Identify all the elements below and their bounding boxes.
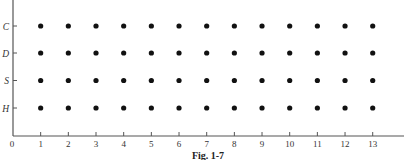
data-point [38,105,43,110]
x-tick-label: 4 [121,139,126,149]
data-point [287,78,292,83]
data-point [287,23,292,28]
data-point [149,105,154,110]
data-point [149,78,154,83]
data-point [66,50,71,55]
data-point [232,23,237,28]
data-point [176,50,181,55]
data-point [315,50,320,55]
data-point [342,105,347,110]
x-tick-label: 7 [204,139,209,149]
data-point [232,78,237,83]
y-category-label: D [1,49,9,59]
data-point [204,23,209,28]
data-point [259,105,264,110]
data-point [259,78,264,83]
data-point [342,78,347,83]
data-point [93,78,98,83]
data-point [121,50,126,55]
data-point [38,50,43,55]
y-category-label: H [1,104,10,114]
data-point [204,105,209,110]
data-point [287,50,292,55]
data-point [204,78,209,83]
x-tick-label: 13 [368,139,378,149]
x-tick-label: 0 [10,139,15,149]
data-point [287,105,292,110]
data-point [176,23,181,28]
data-point [370,105,375,110]
data-point [204,50,209,55]
y-ticks: HSDC [1,22,17,114]
x-tick-label: 10 [285,139,295,149]
data-point [370,78,375,83]
data-point [38,23,43,28]
data-point [232,105,237,110]
data-point [93,105,98,110]
data-point [121,78,126,83]
data-point [66,78,71,83]
x-tick-label: 5 [149,139,154,149]
data-point [259,50,264,55]
data-point [232,50,237,55]
data-point [149,50,154,55]
data-point [370,50,375,55]
data-point [315,78,320,83]
data-point [315,23,320,28]
data-point [342,50,347,55]
x-tick-label: 3 [94,139,99,149]
figure-caption: Fig. 1-7 [192,150,224,160]
data-point [121,105,126,110]
x-ticks: 012345678910111213 [10,132,378,149]
data-point [66,105,71,110]
scatter-chart: 012345678910111213 HSDC Fig. 1-7 [0,0,404,160]
data-point [93,23,98,28]
data-point [259,23,264,28]
data-point [66,23,71,28]
data-point [370,23,375,28]
data-point [342,23,347,28]
x-tick-label: 11 [313,139,322,149]
data-point [38,78,43,83]
data-point [149,23,154,28]
data-point [176,78,181,83]
x-tick-label: 8 [232,139,237,149]
x-tick-label: 12 [341,139,350,149]
y-category-label: C [3,22,10,32]
x-tick-label: 6 [177,139,182,149]
x-tick-label: 2 [66,139,71,149]
x-tick-label: 1 [38,139,43,149]
data-point [93,50,98,55]
x-tick-label: 9 [260,139,265,149]
data-point [121,23,126,28]
y-category-label: S [4,76,9,86]
data-points [38,23,375,110]
data-point [176,105,181,110]
data-point [315,105,320,110]
